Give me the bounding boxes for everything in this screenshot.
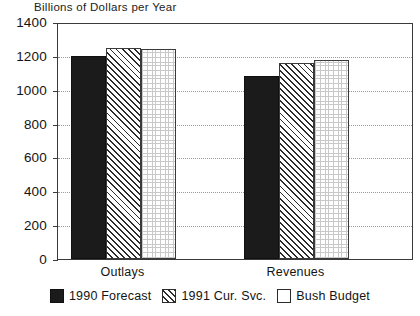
x-axis-category-label: Revenues: [246, 265, 346, 279]
y-axis-tick: [53, 57, 58, 58]
legend-swatch-icon: [277, 289, 291, 303]
bar: [106, 48, 141, 259]
bar: [71, 56, 106, 259]
y-axis-tick-label: 400: [0, 184, 47, 199]
y-axis-tick-label: 800: [0, 117, 47, 132]
y-axis-tick-label: 0: [0, 252, 47, 267]
y-axis-tick: [53, 158, 58, 159]
y-axis-tick: [53, 260, 58, 261]
bar: [314, 60, 349, 259]
y-axis-tick-label: 1200: [0, 49, 47, 64]
bar: [279, 63, 314, 259]
y-axis-tick-label: 1000: [0, 83, 47, 98]
chart-legend: 1990 Forecast1991 Cur. Svc.Bush Budget: [0, 289, 420, 303]
legend-item[interactable]: 1991 Cur. Svc.: [162, 289, 266, 303]
legend-label: 1991 Cur. Svc.: [181, 289, 266, 303]
y-axis-tick-label: 200: [0, 218, 47, 233]
y-axis-tick: [53, 226, 58, 227]
x-axis-category-label: Outlays: [73, 265, 173, 279]
legend-swatch-icon: [162, 289, 176, 303]
y-axis-tick: [53, 23, 58, 24]
legend-item[interactable]: Bush Budget: [277, 289, 370, 303]
y-axis-tick: [53, 125, 58, 126]
legend-label: Bush Budget: [296, 289, 370, 303]
plot-area: [57, 23, 413, 260]
bar-chart-figure: Billions of Dollars per Year 02004006008…: [0, 0, 420, 316]
y-axis-tick: [53, 91, 58, 92]
legend-label: 1990 Forecast: [69, 289, 152, 303]
bar: [244, 76, 279, 259]
bar: [141, 49, 176, 259]
y-axis-tick: [53, 192, 58, 193]
legend-swatch-icon: [50, 289, 64, 303]
chart-title: Billions of Dollars per Year: [34, 1, 177, 13]
y-axis-tick-label: 1400: [0, 15, 47, 30]
legend-item[interactable]: 1990 Forecast: [50, 289, 152, 303]
y-axis-tick-label: 600: [0, 150, 47, 165]
